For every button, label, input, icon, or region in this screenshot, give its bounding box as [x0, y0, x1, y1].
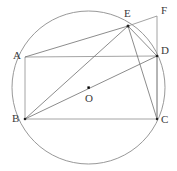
segment-be — [25, 26, 128, 119]
segment-bd — [25, 56, 157, 119]
point-label-c: C — [161, 114, 168, 125]
point-label-b: B — [12, 113, 19, 124]
point-label-f: F — [161, 5, 167, 16]
segment-ef — [128, 16, 157, 26]
segment-ae — [25, 26, 128, 57]
geometry-figure: A B C D E F O — [0, 0, 177, 171]
vertex-dot-d — [156, 55, 159, 58]
vertex-dot-e — [127, 25, 130, 28]
point-label-d: D — [161, 45, 169, 56]
point-label-e: E — [124, 8, 131, 19]
segment-ec — [128, 26, 157, 119]
geometry-canvas — [0, 0, 177, 171]
vertex-dot-b — [24, 118, 27, 121]
center-point-o — [87, 86, 89, 88]
point-label-o: O — [85, 93, 93, 104]
point-label-a: A — [13, 50, 21, 61]
vertex-dot-c — [156, 118, 158, 120]
